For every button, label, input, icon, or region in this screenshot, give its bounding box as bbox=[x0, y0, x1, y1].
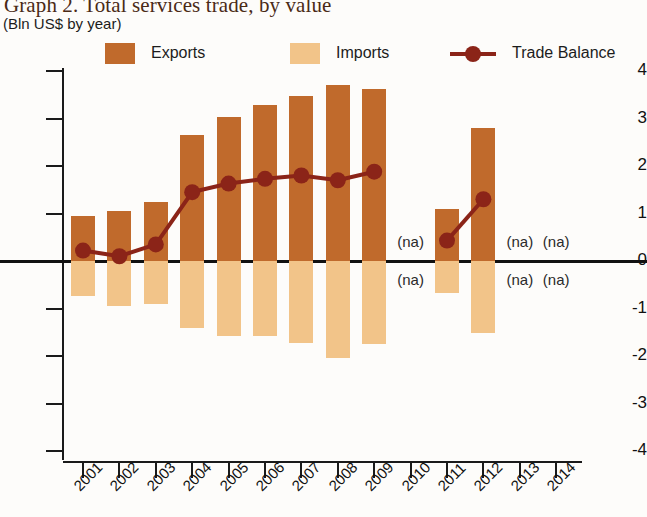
y-tick bbox=[46, 70, 62, 72]
na-label: (na) bbox=[387, 233, 435, 250]
bar-imports[interactable] bbox=[217, 261, 241, 336]
bar-imports[interactable] bbox=[326, 261, 350, 358]
bar-exports[interactable] bbox=[217, 117, 241, 261]
x-axis: 2001200220032004200520062007200820092010… bbox=[0, 458, 647, 517]
y-tick bbox=[46, 118, 62, 120]
bar-exports[interactable] bbox=[289, 96, 313, 261]
bar-imports[interactable] bbox=[471, 261, 495, 333]
y-tick-label: -4 bbox=[603, 440, 647, 460]
y-tick-label: 4 bbox=[603, 60, 647, 80]
bar-exports[interactable] bbox=[107, 211, 131, 261]
y-tick-label: -1 bbox=[603, 298, 647, 318]
bar-exports[interactable] bbox=[471, 128, 495, 261]
x-tick-label: 2003 bbox=[143, 458, 179, 494]
zero-baseline bbox=[0, 260, 647, 263]
x-tick-label: 2011 bbox=[434, 459, 469, 494]
na-label: (na) bbox=[387, 271, 435, 288]
x-tick-label: 2010 bbox=[398, 458, 434, 494]
x-tick-label: 2007 bbox=[288, 458, 324, 494]
x-tick-label: 2004 bbox=[179, 458, 215, 494]
x-tick-label: 2005 bbox=[216, 458, 252, 494]
y-tick-label: 3 bbox=[603, 108, 647, 128]
bar-imports[interactable] bbox=[107, 261, 131, 306]
x-tick-label: 2009 bbox=[361, 458, 397, 494]
y-tick bbox=[46, 355, 62, 357]
bar-exports[interactable] bbox=[71, 216, 95, 261]
bar-exports[interactable] bbox=[326, 85, 350, 261]
bar-imports[interactable] bbox=[180, 261, 204, 328]
bar-imports[interactable] bbox=[289, 261, 313, 343]
x-axis-line bbox=[63, 461, 582, 463]
bar-exports[interactable] bbox=[144, 202, 168, 261]
chart-container: Graph 2. Total services trade, by value … bbox=[0, 0, 647, 517]
bar-imports[interactable] bbox=[253, 261, 277, 336]
y-tick-label: -3 bbox=[603, 393, 647, 413]
bar-exports[interactable] bbox=[253, 105, 277, 261]
x-tick-label: 2001 bbox=[70, 458, 106, 494]
y-tick-label: -2 bbox=[603, 345, 647, 365]
y-tick bbox=[46, 450, 62, 452]
bar-imports[interactable] bbox=[362, 261, 386, 344]
y-tick bbox=[46, 165, 62, 167]
bar-exports[interactable] bbox=[180, 135, 204, 261]
bar-imports[interactable] bbox=[144, 261, 168, 304]
na-label: (na) bbox=[532, 233, 580, 250]
bar-exports[interactable] bbox=[435, 209, 459, 261]
na-label: (na) bbox=[532, 271, 580, 288]
x-tick-label: 2013 bbox=[507, 458, 543, 494]
y-tick-label: 1 bbox=[603, 203, 647, 223]
y-tick-label: 2 bbox=[603, 155, 647, 175]
y-tick bbox=[46, 213, 62, 215]
y-tick bbox=[46, 308, 62, 310]
y-tick bbox=[46, 403, 62, 405]
chart-subtitle: (Bln US$ by year) bbox=[3, 15, 121, 32]
bar-imports[interactable] bbox=[71, 261, 95, 296]
bar-exports[interactable] bbox=[362, 89, 386, 261]
plot-area: 43210-1-2-3-4 (na)(na)(na)(na)(na)(na) bbox=[0, 60, 647, 460]
bar-imports[interactable] bbox=[435, 261, 459, 293]
x-tick-label: 2006 bbox=[252, 458, 288, 494]
y-axis-line bbox=[62, 68, 64, 460]
x-tick-label: 2008 bbox=[325, 458, 361, 494]
x-tick-label: 2002 bbox=[106, 458, 142, 494]
x-tick-label: 2012 bbox=[470, 458, 506, 494]
x-tick-label: 2014 bbox=[543, 458, 579, 494]
